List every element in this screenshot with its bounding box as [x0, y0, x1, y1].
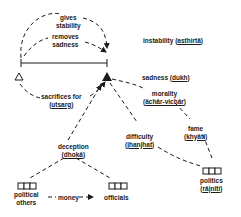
removes-sadness-label: removessadness — [52, 33, 79, 48]
fame-label: fame(khyāti) — [184, 125, 207, 140]
filled-triangle-icon — [102, 72, 112, 81]
gives-stability-label: givesstability — [56, 14, 81, 29]
difficulty-label: difficulty(jhanjhat) — [125, 133, 154, 148]
sacrifices-label: sacrifices for(utsarg) — [41, 93, 81, 108]
sadness-label: sadness (dukh) — [142, 74, 190, 82]
deception-label: deception(dhokā) — [58, 143, 89, 158]
instability-label: instability (asthirtā) — [143, 37, 203, 45]
open-triangle-icon — [15, 73, 23, 80]
political-others-label: politicalothers — [14, 191, 39, 206]
morality-label: morality(āchār-vichār) — [143, 90, 186, 105]
officials-label: officials — [104, 194, 129, 202]
money-label: money — [58, 194, 79, 202]
politics-label: politics(rājnīti) — [200, 177, 223, 192]
